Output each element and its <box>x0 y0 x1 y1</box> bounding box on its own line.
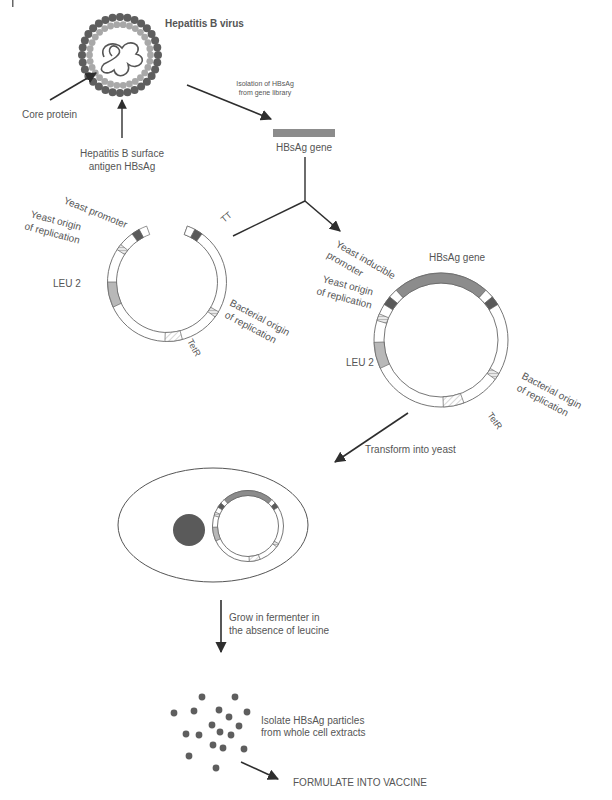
hbsag-particles <box>171 694 251 772</box>
core-protein-label: Core protein <box>22 109 77 120</box>
hbsag-gene-bar <box>273 129 335 137</box>
recombinant-hbsag-label: HBsAg gene <box>429 252 486 263</box>
core-protein-arrow <box>50 73 96 100</box>
fermenter-label-2: the absence of leucine <box>229 625 330 636</box>
vaccine-arrow <box>241 762 278 779</box>
recombinant-tetr-label: TetR <box>485 410 504 431</box>
transform-label: Transform into yeast <box>365 444 456 455</box>
junction-right-arrow <box>305 201 340 231</box>
plasmid-in-yeast <box>213 491 284 562</box>
junction-left <box>233 201 305 236</box>
isolation-label-2: from gene library <box>239 89 292 97</box>
surface-antigen-label-1: Hepatitis B surface <box>80 148 164 159</box>
corner-mark <box>12 0 14 7</box>
isolate-label-2: from whole cell extracts <box>261 727 365 738</box>
vector-tetr-label: TetR <box>185 337 203 358</box>
vaccine-production-diagram: Hepatitis B virus Core protein Hepatitis… <box>0 0 612 800</box>
yeast-nucleus <box>173 514 205 546</box>
virus-title: Hepatitis B virus <box>165 18 244 29</box>
vector-tt-label: TT <box>219 209 234 224</box>
vaccine-label: FORMULATE INTO VACCINE <box>293 777 427 788</box>
surface-antigen-label-2: antigen HBsAg <box>89 161 156 172</box>
yeast-vector-plasmid <box>108 226 227 341</box>
recombinant-leu2-label: LEU 2 <box>346 357 374 368</box>
hepatitis-b-virus <box>78 13 162 97</box>
hbsag-gene-label: HBsAg gene <box>276 142 333 153</box>
isolation-label-1: Isolation of HBsAg <box>236 80 294 88</box>
recombinant-plasmid <box>374 273 508 407</box>
isolate-label-1: Isolate HBsAg particles <box>261 715 364 726</box>
fermenter-label-1: Grow in fermenter in <box>229 612 320 623</box>
vector-leu2-label: LEU 2 <box>53 278 81 289</box>
